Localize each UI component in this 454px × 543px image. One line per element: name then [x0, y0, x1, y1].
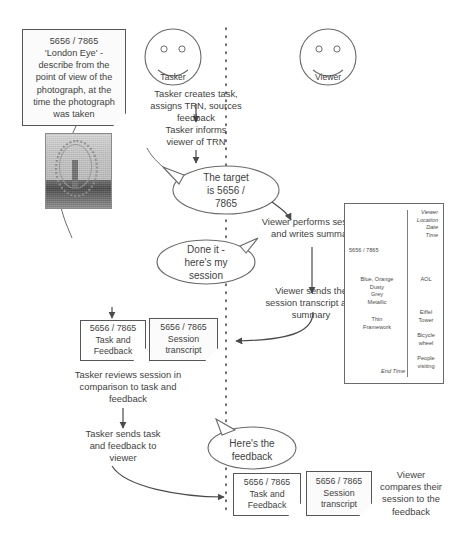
- transcript-header-fields: Viewer Location Date Time: [386, 209, 438, 239]
- step-1-caption: Tasker creates task, assigns TRN, source…: [131, 88, 261, 125]
- bubble-target-text: The target is 5656 / 7865: [183, 171, 269, 210]
- doc-folded-corner-icon: [205, 348, 218, 361]
- transcript-note-bicycle: Bicycle wheel: [409, 332, 443, 347]
- photo-grain-overlay: [46, 134, 111, 208]
- diagram-canvas: 5656 / 7865 'London Eye' - describe from…: [0, 0, 454, 543]
- doc-session-transcript-1-text: 5656 / 7865 Session transcript: [160, 322, 206, 357]
- tasker-label: Tasker: [143, 61, 203, 83]
- bubble-done-text: Done it - here's my session: [166, 243, 246, 282]
- task-note-box: 5656 / 7865 'London Eye' - describe from…: [22, 29, 126, 126]
- transcript-descriptors: Blue, Orange Dusty Grey Metallic: [349, 276, 405, 306]
- transcript-note-people: People visiting: [409, 355, 443, 370]
- doc-task-feedback-2: 5656 / 7865 Task and Feedback: [233, 473, 301, 516]
- step-2-caption: Tasker informs viewer of TRN: [139, 124, 253, 148]
- arrow-feedback-to-viewer: [112, 466, 224, 497]
- step-5-caption: Tasker reviews session in comparison to …: [54, 369, 202, 406]
- photo-tail-connector: [61, 207, 72, 238]
- london-eye-photo: [45, 133, 112, 209]
- doc-session-transcript-2: 5656 / 7865 Session transcript: [306, 471, 372, 516]
- viewer-label: Viewer: [298, 61, 358, 83]
- transcript-end-time: End Time: [349, 368, 405, 376]
- bubble-feedback-text: Here's the feedback: [212, 437, 292, 463]
- doc-task-feedback-1: 5656 / 7865 Task and Feedback: [80, 320, 146, 361]
- task-note-text: 5656 / 7865 'London Eye' - describe from…: [33, 35, 115, 120]
- transcript-structure: Thin Framework: [349, 316, 405, 331]
- transcript-trn: 5656 / 7865: [349, 247, 401, 255]
- note-folded-corner-icon: [113, 113, 126, 126]
- step-6-caption: Tasker sends task and feedback to viewer: [64, 428, 182, 465]
- doc-task-feedback-2-text: 5656 / 7865 Task and Feedback: [244, 477, 290, 512]
- doc-task-feedback-1-text: 5656 / 7865 Task and Feedback: [90, 323, 136, 358]
- step-7-caption: Viewer compares their session to the fee…: [369, 469, 453, 518]
- doc-session-transcript-2-text: 5656 / 7865 Session transcript: [316, 476, 362, 511]
- session-transcript-panel: Viewer Location Date Time 5656 / 7865 Bl…: [344, 203, 444, 384]
- doc-session-transcript-1: 5656 / 7865 Session transcript: [149, 318, 218, 361]
- transcript-note-aol: AOL: [409, 276, 443, 284]
- transcript-note-eiffel: Eiffel Tower: [409, 309, 443, 324]
